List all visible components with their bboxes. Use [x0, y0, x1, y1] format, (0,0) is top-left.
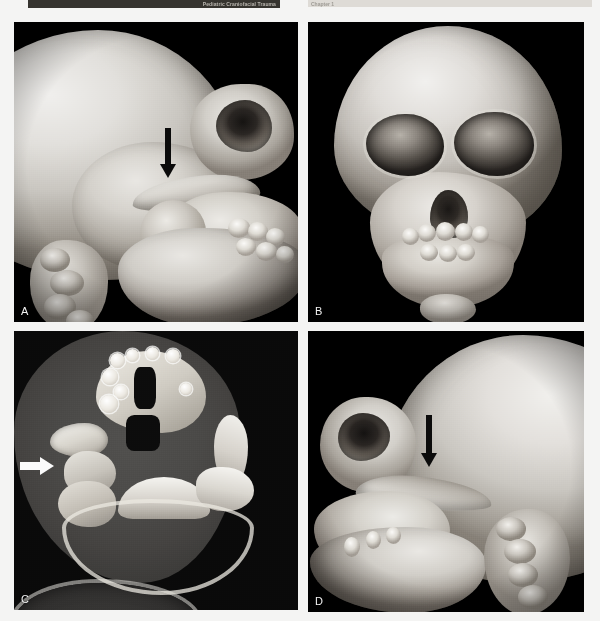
- vertebra: [50, 270, 84, 296]
- tooth: [166, 349, 180, 363]
- arrow-head: [421, 453, 437, 467]
- figure-panel-d: D: [308, 331, 584, 612]
- page-header-strip: Pediatric Craniofacial Trauma Chapter 1: [0, 0, 600, 9]
- arrow-head: [40, 457, 54, 475]
- vertebra: [40, 248, 70, 272]
- chapter-bar: Chapter 1: [308, 0, 592, 7]
- panel-label-c: C: [21, 593, 29, 605]
- figure-panel-b: B: [308, 22, 584, 322]
- left-orbit-cavity: [454, 112, 534, 176]
- nasopharynx-airway: [126, 415, 160, 451]
- panel-label-b: B: [315, 305, 323, 317]
- tooth: [102, 369, 118, 385]
- nasal-airway: [134, 367, 156, 409]
- vertebra: [496, 517, 526, 541]
- fracture-pointer-arrow-c: [20, 457, 54, 475]
- tooth: [114, 385, 128, 399]
- vertebra: [518, 585, 548, 609]
- tooth: [110, 353, 125, 368]
- fracture-pointer-arrow-a: [159, 128, 177, 178]
- arrow-shaft: [426, 415, 432, 453]
- figure-panel-a: A: [14, 22, 298, 322]
- figure-panel-c: C: [14, 331, 298, 610]
- vertebra: [504, 539, 536, 564]
- panel-a-scene: [14, 22, 298, 322]
- right-orbit-cavity: [366, 114, 444, 176]
- running-head-text: Pediatric Craniofacial Trauma: [28, 1, 276, 7]
- fracture-pointer-arrow-d: [420, 415, 438, 467]
- running-head-bar: Pediatric Craniofacial Trauma: [28, 0, 280, 8]
- panel-c-scene: [14, 331, 298, 610]
- vertebra: [508, 563, 538, 587]
- tooth: [146, 347, 159, 360]
- tooth: [100, 395, 118, 413]
- chapter-label: Chapter 1: [311, 1, 334, 7]
- cervical-spine-bone: [420, 294, 476, 322]
- tooth: [180, 383, 192, 395]
- panel-b-scene: [308, 22, 584, 322]
- figure-grid: A B: [0, 9, 600, 621]
- arrow-shaft: [165, 128, 171, 164]
- arrow-head: [160, 164, 176, 178]
- panel-label-d: D: [315, 595, 323, 607]
- panel-d-scene: [308, 331, 584, 612]
- calvarial-inner-table: [62, 499, 254, 595]
- orbit-cavity: [216, 100, 272, 152]
- panel-label-a: A: [21, 305, 29, 317]
- tooth: [126, 349, 139, 362]
